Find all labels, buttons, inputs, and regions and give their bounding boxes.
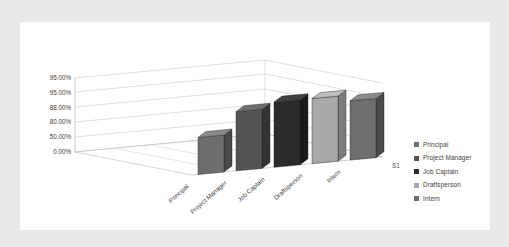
bar-project-manager[interactable] bbox=[236, 103, 270, 171]
bar-front-face bbox=[198, 135, 224, 174]
gridlines-group bbox=[75, 60, 382, 157]
bar-top-face bbox=[350, 92, 384, 100]
legend-swatch-icon bbox=[414, 196, 419, 201]
bar-top-face bbox=[198, 129, 232, 137]
bar-front-face bbox=[236, 109, 262, 171]
legend-item-label: Principal bbox=[423, 142, 448, 148]
chart-plot-area: 95.00%95.00%88.00%80.00%50.00%0.00% Prin… bbox=[20, 22, 490, 230]
gridline-3 bbox=[75, 104, 265, 122]
y-axis-tick-label: 50.00% bbox=[50, 133, 72, 140]
gridline-2-right bbox=[265, 89, 382, 112]
x-axis-category-label: Draftsperson bbox=[272, 171, 305, 201]
bar-side-face bbox=[224, 129, 232, 172]
bar-principal[interactable] bbox=[198, 129, 232, 174]
legend-item[interactable]: Job Captain bbox=[414, 165, 509, 179]
gridline-2 bbox=[75, 89, 265, 107]
bar-intern[interactable] bbox=[350, 92, 384, 160]
bar-front-face bbox=[312, 96, 338, 164]
chart-legend: PrincipalProject ManagerJob CaptainDraft… bbox=[414, 138, 509, 206]
legend-item-label: Draftsperson bbox=[423, 182, 461, 188]
y-axis-tick-label: 80.00% bbox=[50, 118, 72, 125]
gridline-1 bbox=[75, 74, 265, 92]
depth-axis-series-label: S1 bbox=[392, 162, 400, 169]
x-axis-category-label: Intern bbox=[325, 168, 342, 184]
gridline-4 bbox=[75, 119, 265, 137]
floor-divider-2 bbox=[151, 145, 268, 168]
y-axis-tick-label: 88.00% bbox=[50, 104, 72, 111]
gridline-baseline bbox=[75, 134, 265, 152]
bars-layer bbox=[198, 90, 384, 174]
x-axis-category-label: Principal bbox=[167, 183, 190, 205]
legend-item[interactable]: Project Manager bbox=[414, 152, 509, 166]
gridline-3-right bbox=[265, 104, 382, 127]
y-axis-tick-label: 95.00% bbox=[50, 74, 72, 81]
bar-side-face bbox=[338, 90, 346, 161]
y-axis-tick-labels: 95.00%95.00%88.00%80.00%50.00%0.00% bbox=[50, 74, 72, 155]
three-d-column-chart: 95.00%95.00%88.00%80.00%50.00%0.00% Prin… bbox=[20, 22, 490, 230]
legend-swatch-icon bbox=[414, 142, 419, 147]
x-axis-category-label: Project Manager bbox=[189, 179, 229, 216]
legend-swatch-icon bbox=[414, 169, 419, 174]
bar-job-captain[interactable] bbox=[274, 94, 308, 168]
bar-top-face bbox=[312, 90, 346, 98]
legend-item[interactable]: Intern bbox=[414, 192, 509, 206]
bar-side-face bbox=[300, 94, 308, 165]
x-axis-category-label: Job Captain bbox=[236, 175, 267, 204]
gridline-1-right bbox=[265, 74, 382, 97]
chart-panel: 95.00%95.00%88.00%80.00%50.00%0.00% Prin… bbox=[20, 22, 490, 230]
floor-group bbox=[75, 134, 382, 175]
bar-side-face bbox=[262, 103, 270, 168]
floor-plane bbox=[75, 134, 382, 175]
legend-swatch-icon bbox=[414, 156, 419, 161]
legend-item-label: Intern bbox=[423, 196, 440, 202]
legend-item[interactable]: Principal bbox=[414, 138, 509, 152]
gridline-top-right-depth bbox=[265, 60, 382, 83]
floor-divider-4 bbox=[227, 138, 344, 161]
legend-item-label: Job Captain bbox=[423, 169, 458, 175]
floor-divider-3 bbox=[189, 141, 306, 164]
bar-top-face bbox=[274, 94, 308, 102]
bar-front-face bbox=[350, 98, 376, 160]
gridline-baseline-right bbox=[265, 134, 382, 157]
gridline-back-top bbox=[75, 60, 265, 78]
y-axis-tick-label: 95.00% bbox=[50, 89, 72, 96]
floor-divider-1 bbox=[113, 148, 230, 171]
legend-item[interactable]: Draftsperson bbox=[414, 179, 509, 193]
bar-front-face bbox=[274, 100, 300, 168]
y-axis-tick-label: 0.00% bbox=[53, 148, 71, 155]
legend-item-label: Project Manager bbox=[423, 155, 471, 161]
bar-draftsperson[interactable] bbox=[312, 90, 346, 164]
gridline-4-right bbox=[265, 119, 382, 142]
x-axis-category-labels: PrincipalProject ManagerJob CaptainDraft… bbox=[167, 168, 342, 216]
bar-top-face bbox=[236, 103, 270, 111]
legend-swatch-icon bbox=[414, 183, 419, 188]
bar-side-face bbox=[376, 92, 384, 157]
